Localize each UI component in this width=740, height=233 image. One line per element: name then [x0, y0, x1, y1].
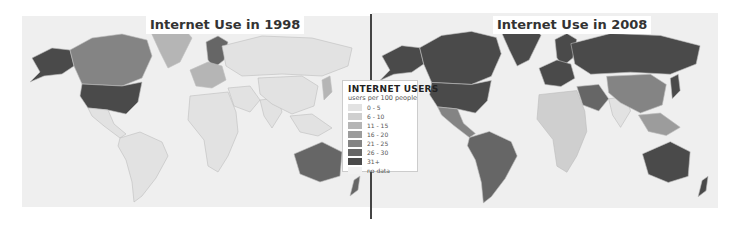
region-new-zealand — [698, 176, 708, 196]
region-canada — [420, 31, 502, 84]
map-2008 — [372, 13, 718, 208]
map-title-2008: Internet Use in 2008 — [493, 16, 651, 34]
legend-item: 21 - 25 — [348, 139, 412, 148]
region-africa — [537, 91, 587, 173]
region-australia — [642, 142, 690, 183]
map-1998 — [22, 16, 370, 207]
world-map-2008 — [372, 13, 718, 208]
legend-swatch — [348, 167, 362, 174]
legend-label: no data — [367, 167, 390, 174]
world-map-1998 — [22, 16, 370, 207]
region-new-zealand — [350, 176, 360, 196]
legend-swatch — [348, 131, 362, 138]
legend-item: 26 - 30 — [348, 148, 412, 157]
region-russia-asia — [571, 33, 700, 74]
region-southeast-asia — [638, 113, 680, 135]
legend-label: 21 - 25 — [367, 140, 388, 147]
legend-item: 16 - 20 — [348, 130, 412, 139]
legend-swatch — [348, 149, 362, 156]
legend-label: 26 - 30 — [367, 149, 388, 156]
legend-label: 31+ — [367, 158, 380, 165]
region-japan — [670, 74, 680, 99]
region-western-europe — [539, 60, 575, 87]
legend-swatch — [348, 158, 362, 165]
legend-item: 11 - 15 — [348, 121, 412, 130]
region-south-america — [467, 131, 517, 202]
region-canada — [70, 34, 152, 86]
legend-item: no data — [348, 166, 412, 175]
legend-swatch — [348, 122, 362, 129]
map-title-1998: Internet Use in 1998 — [146, 16, 304, 34]
region-south-america — [118, 132, 168, 202]
legend-swatch — [348, 113, 362, 120]
region-japan — [322, 76, 332, 100]
region-africa — [188, 92, 238, 172]
legend-swatch — [348, 104, 362, 111]
legend-label: 11 - 15 — [367, 122, 388, 129]
legend-item: 0 - 5 — [348, 103, 412, 112]
region-russia-asia — [222, 36, 352, 76]
legend-subtitle: users per 100 people — [348, 94, 412, 103]
region-western-europe — [190, 62, 226, 88]
region-alaska — [380, 46, 424, 81]
region-australia — [294, 142, 342, 182]
legend-item: 6 - 10 — [348, 112, 412, 121]
region-southeast-asia — [290, 114, 332, 136]
legend: INTERNET USERS users per 100 people 0 - … — [342, 80, 418, 172]
legend-label: 16 - 20 — [367, 131, 388, 138]
legend-label: 6 - 10 — [367, 113, 384, 120]
legend-label: 0 - 5 — [367, 104, 381, 111]
legend-swatch — [348, 140, 362, 147]
legend-item: 31+ — [348, 157, 412, 166]
region-alaska — [30, 48, 74, 82]
legend-title: INTERNET USERS — [348, 84, 412, 94]
legend-items: 0 - 56 - 1011 - 1516 - 2021 - 2526 - 303… — [348, 103, 412, 175]
